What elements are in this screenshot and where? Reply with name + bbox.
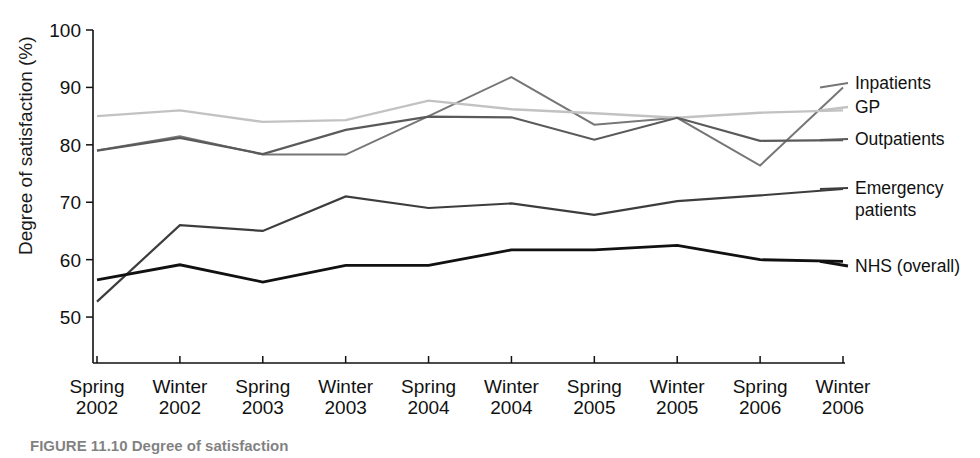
line-chart: Degree of satisfaction (%) 5060708090100… xyxy=(0,0,980,458)
x-axis-tick-labels: Spring2002Winter2002Spring2003Winter2003… xyxy=(70,376,872,418)
legend-label-emergency: Emergency xyxy=(855,178,944,198)
y-tick-label: 70 xyxy=(60,192,81,213)
x-tick-label-season: Spring xyxy=(235,376,290,397)
x-tick-label-season: Winter xyxy=(484,376,540,397)
x-tick-label-season: Winter xyxy=(318,376,374,397)
x-tick-label-year: 2004 xyxy=(490,397,533,418)
x-tick-label-season: Spring xyxy=(70,376,125,397)
y-tick-label: 90 xyxy=(60,77,81,98)
x-tick-label-season: Winter xyxy=(650,376,706,397)
series-line-gp xyxy=(97,101,843,122)
y-axis-title: Degree of satisfaction (%) xyxy=(15,36,36,255)
x-tick-label-year: 2006 xyxy=(739,397,781,418)
x-tick-label-year: 2005 xyxy=(656,397,698,418)
y-axis-ticks xyxy=(86,30,93,317)
series-line-emergency-patients xyxy=(97,189,843,302)
x-tick-label-year: 2006 xyxy=(822,397,864,418)
x-tick-label-year: 2003 xyxy=(242,397,284,418)
figure-caption-strip: FIGURE 11.10 Degree of satisfaction xyxy=(0,440,980,458)
legend-label-gp: GP xyxy=(855,97,880,117)
figure-caption: FIGURE 11.10 Degree of satisfaction xyxy=(30,440,288,454)
x-tick-label-season: Spring xyxy=(401,376,456,397)
legend-label-inpatients: Inpatients xyxy=(855,73,931,93)
series-line-inpatients xyxy=(97,77,843,165)
series-group xyxy=(97,77,843,302)
legend-leader-outpatients xyxy=(820,139,848,140)
legend-leader-gp xyxy=(820,107,848,110)
y-axis-title-group: Degree of satisfaction (%) xyxy=(15,36,36,255)
x-axis-ticks xyxy=(97,356,843,363)
x-tick-label-season: Winter xyxy=(152,376,208,397)
legend-label-outpatients: Outpatients xyxy=(855,129,945,149)
y-axis-tick-labels: 5060708090100 xyxy=(49,20,81,328)
series-line-nhs-overall xyxy=(97,245,843,282)
x-tick-label-year: 2005 xyxy=(573,397,615,418)
legend-leader-emergency-patients xyxy=(820,188,848,189)
legend-leader-inpatients xyxy=(820,83,848,87)
legend-label-emergency-2: patients xyxy=(855,200,917,220)
legend-label-nhs: NHS (overall) xyxy=(855,256,960,276)
x-tick-label-year: 2004 xyxy=(407,397,450,418)
x-tick-label-season: Winter xyxy=(816,376,872,397)
y-tick-label: 100 xyxy=(49,20,81,41)
x-tick-label-year: 2002 xyxy=(159,397,201,418)
x-tick-label-year: 2003 xyxy=(325,397,367,418)
x-tick-label-season: Spring xyxy=(733,376,788,397)
y-tick-label: 60 xyxy=(60,250,81,271)
x-tick-label-season: Spring xyxy=(567,376,622,397)
y-tick-label: 80 xyxy=(60,135,81,156)
y-tick-label: 50 xyxy=(60,307,81,328)
legend-group: Inpatients GP Outpatients Emergency pati… xyxy=(855,73,960,276)
x-tick-label-year: 2002 xyxy=(76,397,118,418)
figure-container: Degree of satisfaction (%) 5060708090100… xyxy=(0,0,980,458)
